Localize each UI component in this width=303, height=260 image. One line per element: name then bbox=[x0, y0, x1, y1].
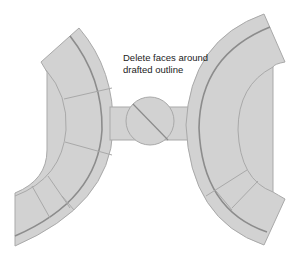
left-body-outline bbox=[15, 28, 113, 246]
annotation-line-1: Delete faces around bbox=[123, 52, 208, 64]
part-diagram bbox=[0, 0, 303, 260]
right-body-outline bbox=[186, 14, 285, 245]
annotation-label: Delete faces around drafted outline bbox=[123, 52, 208, 76]
right-curved-body bbox=[186, 14, 285, 245]
center-boss bbox=[126, 97, 174, 145]
annotation-line-2: drafted outline bbox=[123, 64, 208, 76]
left-curved-body bbox=[15, 28, 113, 246]
